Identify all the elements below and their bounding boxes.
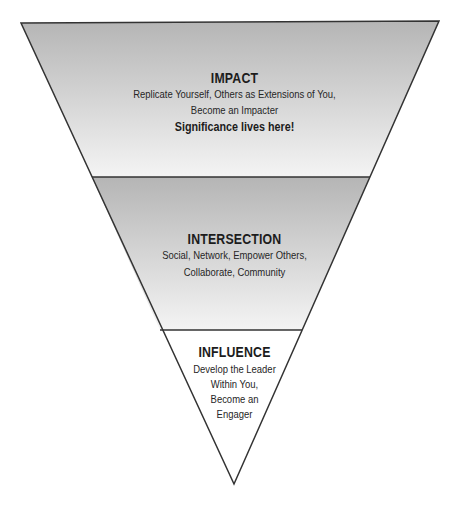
impact-emphasis: Significance lives here! <box>33 120 436 134</box>
intersection-line-1: Social, Network, Empower Others, <box>33 249 436 261</box>
intersection-title: INTERSECTION <box>28 231 441 247</box>
impact-title: IMPACT <box>28 70 441 86</box>
intersection-line-2: Collaborate, Community <box>33 266 436 278</box>
influence-line-4: Engager <box>33 408 436 420</box>
influence-title: INFLUENCE <box>28 344 441 360</box>
influence-line-1: Develop the Leader <box>33 363 436 375</box>
impact-line-2: Become an Impacter <box>33 104 436 116</box>
influence-line-3: Become an <box>33 393 436 405</box>
influence-line-2: Within You, <box>33 378 436 390</box>
impact-line-1: Replicate Yourself, Others as Extensions… <box>33 88 436 100</box>
